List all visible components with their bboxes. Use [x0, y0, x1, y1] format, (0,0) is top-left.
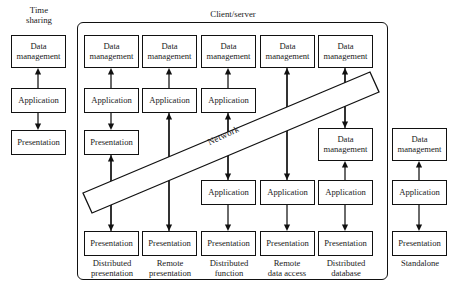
box-distfunc-data-management: Datamanagement — [201, 35, 256, 68]
arrow-distdb-dmserver-to-dmclient — [342, 68, 348, 128]
box-distfunc-application-client: Application — [201, 180, 256, 205]
box-label: Presentation — [89, 239, 133, 248]
box-label: Datamanagement — [397, 135, 443, 154]
caption-remote-presentation: Remotepresentation — [140, 259, 200, 278]
box-distdb-data-management-server: Datamanagement — [318, 35, 373, 68]
box-rempres-presentation: Presentation — [142, 231, 197, 256]
box-label: Presentation — [147, 239, 191, 248]
arrow-standalone-app-to-dm — [416, 161, 422, 180]
box-distpres-application: Application — [84, 88, 139, 113]
box-label: Datamanagement — [323, 42, 369, 61]
arrow-remdata-dm-to-app — [284, 68, 290, 180]
caption-remote-data-access: Remotedata access — [257, 259, 317, 278]
arrow-distfunc-server-to-appclient — [225, 113, 231, 180]
box-label: Presentation — [16, 138, 60, 147]
caption-distributed-presentation: Distributedpresentation — [82, 259, 142, 278]
box-label: Datamanagement — [89, 42, 135, 61]
arrow-distfunc-app-to-dm — [225, 68, 231, 88]
arrow-rempres-app-to-pres — [166, 113, 172, 231]
arrow-distpres-app-to-dm — [108, 68, 114, 88]
box-distpres-presentation-client: Presentation — [84, 231, 139, 256]
box-label: Presentation — [265, 239, 309, 248]
box-remdata-presentation: Presentation — [260, 231, 315, 256]
box-timesharing-presentation: Presentation — [11, 130, 66, 155]
arrow-timesharing-app-to-dm — [35, 68, 41, 88]
box-distpres-data-management: Datamanagement — [84, 35, 139, 68]
box-standalone-data-management: Datamanagement — [392, 128, 447, 161]
arrow-standalone-app-to-pres — [416, 205, 422, 231]
box-label: Presentation — [89, 138, 133, 147]
box-distdb-presentation: Presentation — [318, 231, 373, 256]
box-label: Application — [148, 96, 191, 105]
box-label: Application — [17, 96, 60, 105]
box-remdata-application: Application — [260, 180, 315, 205]
arrow-distfunc-app-to-pres — [225, 205, 231, 231]
arrow-rempres-app-to-dm — [166, 68, 172, 88]
client-server-title: Client/server — [168, 9, 298, 19]
box-label: Datamanagement — [147, 42, 193, 61]
box-label: Application — [398, 188, 441, 197]
caption-distributed-database: Distributeddatabase — [316, 259, 376, 278]
box-timesharing-data-management: Datamanagement — [11, 35, 66, 68]
arrow-distdb-app-to-pres — [342, 205, 348, 231]
box-distfunc-presentation: Presentation — [201, 231, 256, 256]
box-standalone-presentation: Presentation — [392, 231, 447, 256]
arrow-distpres-app-to-pres — [108, 113, 114, 130]
box-label: Datamanagement — [265, 42, 311, 61]
box-label: Application — [266, 188, 309, 197]
arrow-timesharing-app-to-pres — [35, 113, 41, 130]
box-label: Datamanagement — [16, 42, 62, 61]
box-remdata-data-management: Datamanagement — [260, 35, 315, 68]
arrow-distdb-app-to-dm — [342, 161, 348, 180]
box-label: Application — [207, 188, 250, 197]
box-distfunc-application-server: Application — [201, 88, 256, 113]
arrow-remdata-app-to-pres — [284, 205, 290, 231]
box-label: Presentation — [323, 239, 367, 248]
box-timesharing-application: Application — [11, 88, 66, 113]
box-distdb-application: Application — [318, 180, 373, 205]
caption-standalone: Standalone — [390, 259, 450, 269]
box-standalone-application: Application — [392, 180, 447, 205]
box-label: Application — [207, 96, 250, 105]
box-label: Datamanagement — [323, 135, 369, 154]
box-rempres-application: Application — [142, 88, 197, 113]
box-label: Application — [324, 188, 367, 197]
box-label: Presentation — [206, 239, 250, 248]
box-label: Presentation — [397, 239, 441, 248]
caption-distributed-function: Distributedfunction — [199, 259, 259, 278]
box-rempres-data-management: Datamanagement — [142, 35, 197, 68]
box-distdb-data-management-client: Datamanagement — [318, 128, 373, 161]
box-label: Datamanagement — [206, 42, 252, 61]
time-sharing-title: Timesharing — [12, 5, 66, 25]
diagram-canvas: Timesharing Client/server Datamanagement… — [0, 0, 456, 293]
box-distpres-presentation-server: Presentation — [84, 130, 139, 155]
arrow-distpres-presclient-down — [108, 155, 114, 231]
box-label: Application — [90, 96, 133, 105]
